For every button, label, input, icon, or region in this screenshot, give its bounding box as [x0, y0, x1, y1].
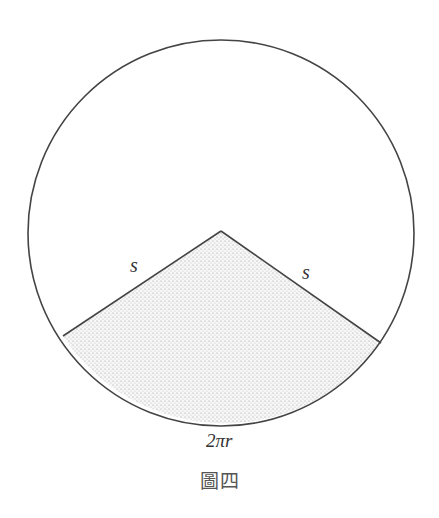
- right-radius-label: s: [302, 261, 310, 283]
- arc-length-label: 2πr: [206, 430, 233, 451]
- shaded-sector: [63, 231, 381, 423]
- circle-sector-diagram: s s 2πr: [0, 0, 439, 518]
- figure-caption: 圖四: [0, 466, 439, 493]
- left-radius-label: s: [130, 254, 138, 276]
